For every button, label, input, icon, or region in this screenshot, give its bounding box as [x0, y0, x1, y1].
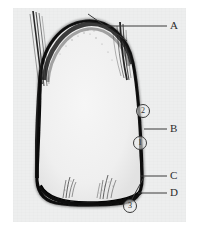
- radiograph-figure: A B C D 2 1 3: [0, 0, 198, 232]
- label-a: A: [170, 20, 178, 31]
- pointer-line-a-diagonal: [88, 14, 127, 41]
- callout-number-1: 1: [133, 136, 147, 150]
- annotation-overlay: [0, 0, 198, 232]
- callout-number-2: 2: [136, 104, 150, 118]
- label-c: C: [170, 170, 178, 181]
- label-b: B: [170, 123, 178, 134]
- leader-line-callout-3: [132, 177, 144, 199]
- callout-number-3: 3: [123, 199, 137, 213]
- label-d: D: [170, 187, 178, 198]
